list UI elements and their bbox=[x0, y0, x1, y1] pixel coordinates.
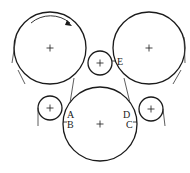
belt-right-lower bbox=[173, 70, 181, 84]
center-mark-top-right bbox=[146, 45, 153, 52]
center-mark-top-left bbox=[47, 45, 54, 52]
roller-diagram: A B C D E bbox=[0, 0, 190, 173]
label-C: C bbox=[126, 119, 133, 130]
center-mark-left-small bbox=[47, 105, 54, 112]
label-B: B bbox=[67, 119, 74, 130]
label-E: E bbox=[117, 56, 123, 67]
rotation-arrow bbox=[31, 16, 72, 26]
label-D: D bbox=[123, 109, 130, 120]
center-mark-middle bbox=[97, 60, 104, 67]
center-mark-bottom bbox=[97, 121, 104, 128]
center-marks bbox=[47, 45, 155, 128]
arrowhead-icon bbox=[65, 20, 72, 26]
center-mark-right-small bbox=[148, 106, 155, 113]
belt-right-small-tail bbox=[163, 109, 165, 126]
